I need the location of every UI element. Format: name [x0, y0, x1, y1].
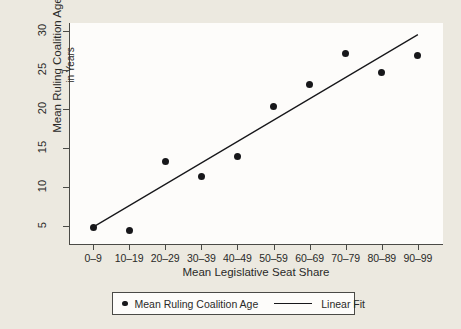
y-axis-title-line1: Mean Ruling Coalition Age [51, 0, 63, 133]
y-axis-tick-label: 30 [36, 15, 48, 45]
x-axis-tick-label: 90–99 [404, 252, 433, 264]
y-axis-tick [63, 31, 69, 32]
plot-frame [69, 23, 443, 245]
legend-entry-line: Linear Fit [274, 298, 365, 310]
x-axis-tick-label: 80–89 [367, 252, 396, 264]
x-axis-tick [346, 245, 347, 250]
x-axis-tick [418, 245, 419, 250]
x-axis-tick-label: 40–49 [223, 252, 252, 264]
y-axis-tick-label: 5 [36, 210, 48, 240]
x-axis-tick [93, 245, 94, 250]
x-axis-tick [201, 245, 202, 250]
legend-dot-icon [122, 301, 128, 307]
x-axis-tick [165, 245, 166, 250]
chart-figure: Mean Ruling Coalition Age in Years 51015… [0, 0, 461, 329]
x-axis-tick [129, 245, 130, 250]
legend-entry-points: Mean Ruling Coalition Age [122, 298, 258, 310]
legend-line-icon [274, 303, 312, 304]
y-axis-tick [63, 148, 69, 149]
legend-label-line: Linear Fit [321, 298, 365, 310]
x-axis-tick-label: 50–59 [259, 252, 288, 264]
y-axis-title: Mean Ruling Coalition Age in Years [51, 0, 77, 145]
chart-legend: Mean Ruling Coalition Age Linear Fit [112, 292, 355, 315]
x-axis-tick [382, 245, 383, 250]
x-axis-tick [310, 245, 311, 250]
x-axis-tick-label: 20–29 [151, 252, 180, 264]
x-axis-tick [274, 245, 275, 250]
y-axis-tick [63, 109, 69, 110]
y-axis-tick [63, 70, 69, 71]
x-axis-tick-label: 0–9 [84, 252, 101, 264]
y-axis-tick-label: 25 [36, 54, 48, 84]
x-axis-title: Mean Legislative Seat Share [69, 266, 443, 278]
x-axis-tick [237, 245, 238, 250]
y-axis-tick-label: 15 [36, 132, 48, 162]
x-axis-tick-label: 70–79 [331, 252, 360, 264]
x-axis-tick-label: 60–69 [295, 252, 324, 264]
y-axis-tick-label: 20 [36, 93, 48, 123]
y-axis-tick [63, 226, 69, 227]
x-axis-tick-label: 30–39 [187, 252, 216, 264]
x-axis-tick-label: 10–19 [115, 252, 144, 264]
y-axis-tick-label: 10 [36, 171, 48, 201]
y-axis-title-line2: in Years [64, 0, 77, 145]
legend-label-points: Mean Ruling Coalition Age [135, 298, 259, 310]
y-axis-tick [63, 187, 69, 188]
